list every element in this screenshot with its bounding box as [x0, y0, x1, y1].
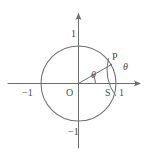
origin-label: O [66, 88, 73, 98]
x-axis-tick-label-negative: −1 [22, 88, 33, 98]
point-p-marker [110, 64, 112, 66]
y-axis-tick-label-positive: 1 [71, 29, 76, 39]
point-p-label: P [112, 52, 118, 62]
y-axis-tick-label-negative: −1 [68, 127, 79, 137]
point-s-label: S [105, 88, 111, 98]
x-axis-tick-label-positive: 1 [119, 88, 124, 98]
central-angle-theta-label: θ [91, 70, 96, 80]
arc-theta-label: θ [123, 62, 128, 72]
unit-circle-figure: 1 −1 −1 1 O S P θ θ [0, 0, 149, 155]
